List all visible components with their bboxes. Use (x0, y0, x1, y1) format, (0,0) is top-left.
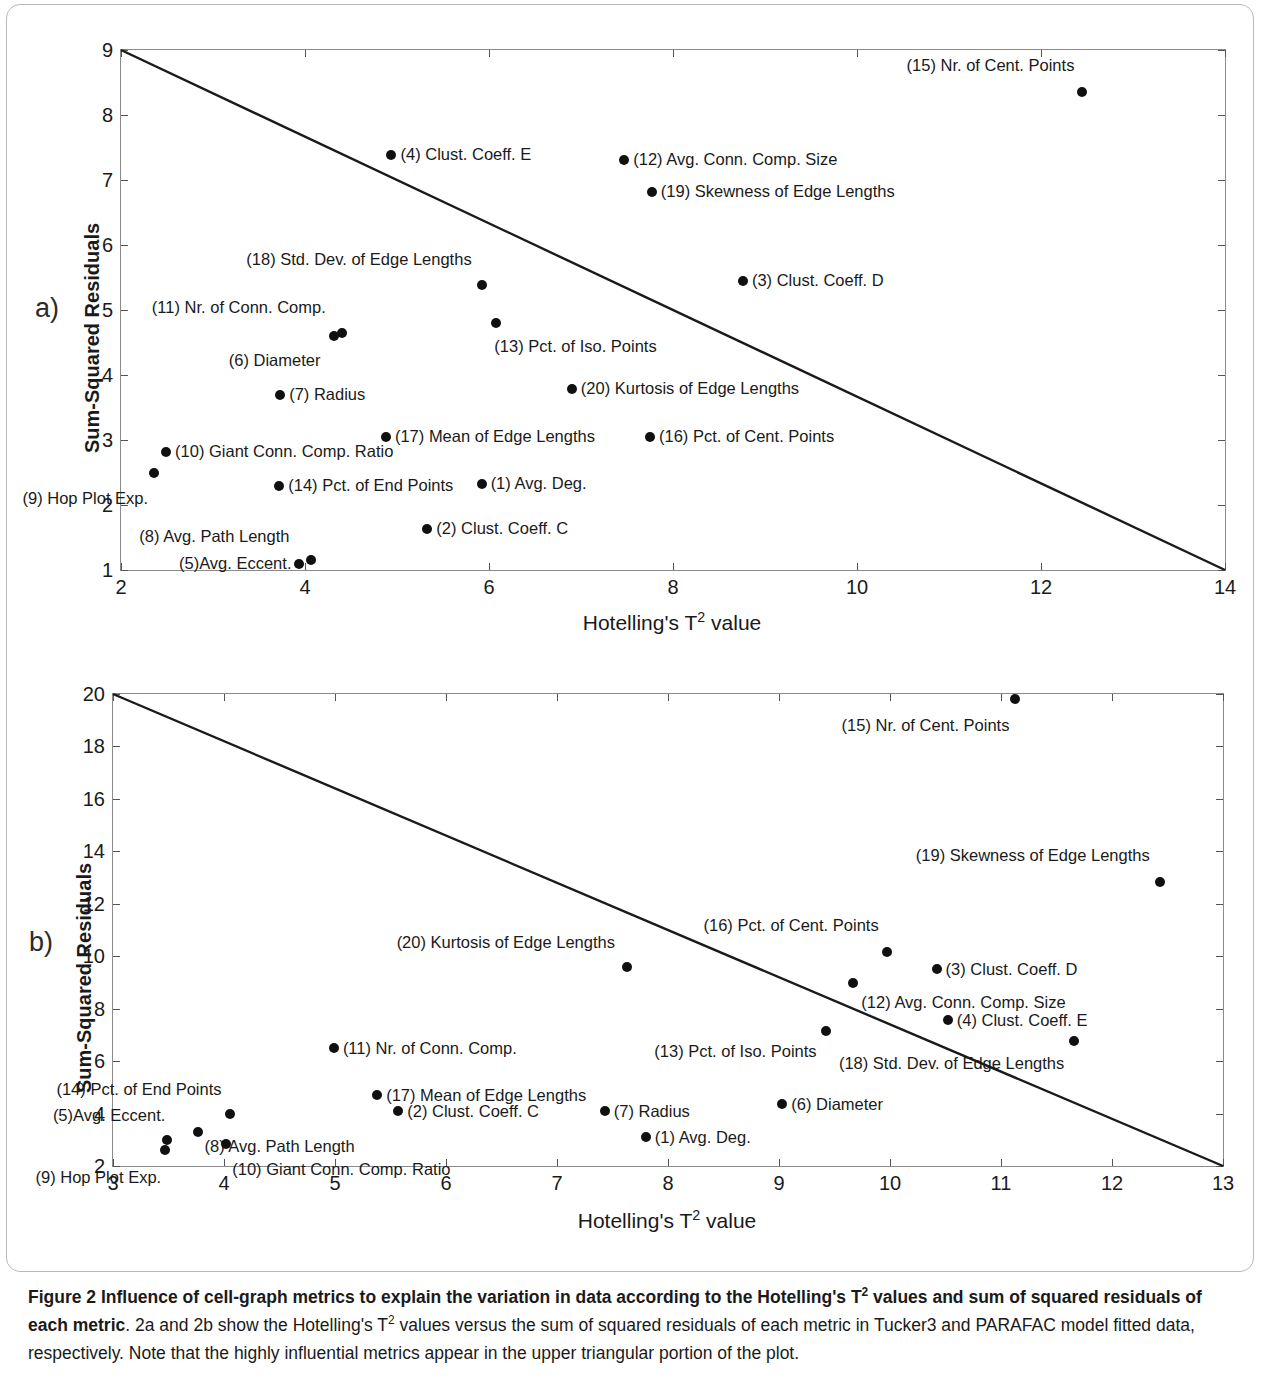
data-point-label: (11) Nr. of Conn. Comp. (343, 1039, 517, 1058)
y-axis-tick (1216, 956, 1223, 957)
y-axis-tick-label: 8 (67, 997, 105, 1020)
data-point (619, 155, 629, 165)
y-axis-tick (113, 1061, 120, 1062)
x-axis-tick-label: 4 (218, 1172, 229, 1195)
y-axis-tick (1216, 694, 1223, 695)
data-point (647, 187, 657, 197)
y-axis-tick (1216, 851, 1223, 852)
y-axis-tick (1218, 505, 1225, 506)
x-axis-label-text: Hotelling's T (583, 611, 698, 634)
data-point-label: (12) Avg. Conn. Comp. Size (861, 993, 1065, 1012)
data-point (641, 1132, 651, 1142)
y-axis-tick-label: 5 (75, 299, 113, 322)
y-axis-tick-label: 3 (75, 429, 113, 452)
y-axis-tick (1218, 50, 1225, 51)
data-point (821, 1026, 831, 1036)
panel-a-y-axis-label: Sum-Squared Residuals (81, 223, 104, 453)
data-point-label: (2) Clust. Coeff. C (407, 1101, 539, 1120)
data-point-label: (7) Radius (614, 1102, 690, 1121)
data-point-label: (5)Avg. Eccent. (53, 1105, 166, 1124)
y-axis-tick-label: 16 (67, 787, 105, 810)
y-axis-tick-label: 14 (67, 840, 105, 863)
data-point (477, 280, 487, 290)
panel-a-plot-area: 2468101214123456789(1) Avg. Deg.(2) Clus… (120, 49, 1226, 571)
y-axis-tick-label: 12 (67, 892, 105, 915)
panel-b-plot-area: 3456789101112132468101214161820(1) Avg. … (112, 693, 1224, 1167)
data-point (1155, 877, 1165, 887)
y-axis-tick (113, 851, 120, 852)
y-axis-tick (113, 694, 120, 695)
y-axis-tick-label: 10 (67, 945, 105, 968)
x-axis-tick-label: 6 (483, 576, 494, 599)
y-axis-tick (1218, 375, 1225, 376)
data-point (1010, 694, 1020, 704)
x-axis-tick-label: 12 (1101, 1172, 1123, 1195)
y-axis-tick (1216, 799, 1223, 800)
x-axis-tick (1112, 694, 1113, 701)
x-axis-tick (113, 1159, 114, 1166)
data-point (274, 481, 284, 491)
reference-line (113, 694, 1223, 1166)
data-point-label: (14) Pct. of End Points (56, 1079, 221, 1098)
y-axis-tick (113, 956, 120, 957)
data-point-label: (15) Nr. of Cent. Points (907, 56, 1075, 75)
data-point (329, 1043, 339, 1053)
x-axis-tick (489, 563, 490, 570)
data-point-label: (11) Nr. of Conn. Comp. (152, 298, 326, 317)
x-axis-tick (1223, 694, 1224, 701)
data-point-label: (19) Skewness of Edge Lengths (916, 846, 1150, 865)
data-point-label: (2) Clust. Coeff. C (436, 519, 568, 538)
data-point (882, 947, 892, 957)
data-point-label: (10) Giant Conn. Comp. Ratio (175, 442, 393, 461)
x-axis-label-suffix: value (700, 1209, 756, 1232)
data-point-label: (6) Diameter (791, 1094, 883, 1113)
data-point-label: (9) Hop Plot Exp. (36, 1168, 162, 1187)
y-axis-tick (1218, 180, 1225, 181)
data-point-label: (16) Pct. of Cent. Points (659, 426, 834, 445)
data-point (162, 1135, 172, 1145)
caption-bold-text: Figure 2 Influence of cell-graph metrics… (28, 1287, 862, 1307)
x-axis-tick (1225, 563, 1226, 570)
chart-panel-a: a) Sum-Squared Residuals 246810121412345… (7, 13, 1255, 643)
data-point (193, 1127, 203, 1137)
x-axis-tick (1001, 1159, 1002, 1166)
data-point (491, 318, 501, 328)
x-axis-tick-label: 13 (1212, 1172, 1234, 1195)
data-point (645, 432, 655, 442)
data-point (848, 978, 858, 988)
x-axis-tick-label: 7 (551, 1172, 562, 1195)
data-point (1077, 87, 1087, 97)
x-axis-tick (557, 694, 558, 701)
x-axis-tick (890, 694, 891, 701)
y-axis-tick (113, 799, 120, 800)
data-point-label: (18) Std. Dev. of Edge Lengths (839, 1053, 1064, 1072)
x-axis-tick-label: 10 (879, 1172, 901, 1195)
caption-exponent-2: 2 (388, 1313, 395, 1327)
data-point (381, 432, 391, 442)
x-axis-tick (1001, 694, 1002, 701)
chart-panel-b: b) Sum-Squared Residuals 345678910111213… (7, 655, 1255, 1267)
data-point-label: (3) Clust. Coeff. D (752, 271, 884, 290)
x-axis-tick (673, 563, 674, 570)
data-point (600, 1106, 610, 1116)
x-axis-label-suffix: value (705, 611, 761, 634)
data-point (221, 1139, 231, 1149)
x-axis-tick (779, 694, 780, 701)
data-point-label: (12) Avg. Conn. Comp. Size (633, 149, 837, 168)
x-axis-tick (890, 1159, 891, 1166)
y-axis-tick (1218, 245, 1225, 246)
data-point-label: (1) Avg. Deg. (491, 474, 587, 493)
x-axis-tick (113, 694, 114, 701)
data-point-label: (7) Radius (289, 384, 365, 403)
data-point-label: (16) Pct. of Cent. Points (703, 915, 878, 934)
x-axis-tick (305, 50, 306, 57)
x-axis-tick (557, 1159, 558, 1166)
x-axis-tick (668, 694, 669, 701)
data-point (738, 276, 748, 286)
x-axis-tick (224, 1159, 225, 1166)
data-point-label: (15) Nr. of Cent. Points (842, 716, 1010, 735)
y-axis-tick (121, 570, 128, 571)
data-point (943, 1015, 953, 1025)
x-axis-tick (673, 50, 674, 57)
figure-frame: a) Sum-Squared Residuals 246810121412345… (6, 4, 1254, 1272)
